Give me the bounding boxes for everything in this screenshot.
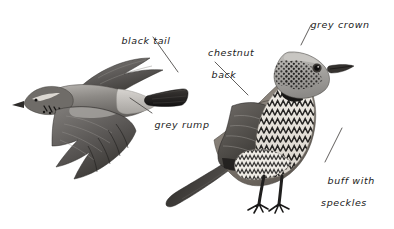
label-chestnut-back-line2: back [193, 69, 255, 80]
flying-bird-eye [35, 99, 38, 102]
label-grey-crown-line1: grey crown [310, 19, 369, 30]
flying-bird-beak [12, 101, 24, 108]
label-buff-speckles: buff with speckles [312, 164, 376, 229]
bird-field-guide-figure: black tail grey rump chestnut back grey … [0, 0, 394, 229]
label-buff-speckles-line2: speckles [312, 197, 376, 208]
standing-bird-eye [314, 65, 320, 71]
label-grey-rump: grey rump [140, 108, 210, 141]
label-chestnut-back: chestnut back [193, 36, 255, 102]
label-grey-crown: grey crown [296, 8, 370, 41]
label-buff-speckles-line1: buff with [328, 175, 375, 186]
leader-buff-speckles [325, 128, 342, 162]
label-black-tail-line1: black tail [121, 35, 170, 46]
label-grey-rump-line1: grey rump [154, 119, 209, 130]
label-black-tail: black tail [107, 24, 171, 57]
standing-bird-feet [248, 204, 289, 213]
label-chestnut-back-line1: chestnut [208, 47, 254, 58]
